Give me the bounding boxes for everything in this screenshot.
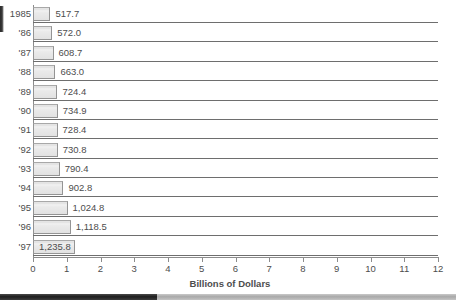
bar-value-label: 1,024.8 (68, 201, 105, 215)
x-tick (101, 257, 102, 262)
row-separator (33, 177, 438, 178)
bar[interactable] (33, 201, 68, 215)
x-tick (33, 257, 34, 262)
x-tick (404, 257, 405, 262)
bar-row: 730.8 (33, 141, 438, 160)
bar-value-label: 1,235.8 (39, 240, 75, 254)
bar[interactable] (33, 65, 55, 79)
bar-value-label: 730.8 (58, 143, 87, 157)
row-separator (33, 80, 438, 81)
x-tick (67, 257, 68, 262)
plot-area: 517.7572.0608.7663.0724.4734.9728.4730.8… (33, 5, 438, 257)
bar-row: 1,235.8 (33, 238, 438, 257)
bar-row: 1,118.5 (33, 218, 438, 237)
row-separator (33, 158, 438, 159)
category-label: '92 (0, 144, 31, 156)
category-label: '89 (0, 86, 31, 98)
x-tick-label: 1 (55, 263, 79, 275)
bar[interactable] (33, 181, 63, 195)
x-tick-label: 11 (392, 263, 416, 275)
bar-value-label: 790.4 (60, 162, 89, 176)
row-separator (33, 235, 438, 236)
bar-row: 902.8 (33, 179, 438, 198)
bar[interactable] (33, 143, 58, 157)
category-label: '87 (0, 47, 31, 59)
x-tick-label: 4 (156, 263, 180, 275)
bar-value-label: 517.7 (50, 7, 79, 21)
x-tick-label: 7 (257, 263, 281, 275)
horizontal-bar-chart: 1985'86'87'88'89'90'91'92'93'94'95'96'97… (0, 0, 460, 303)
x-tick-label: 3 (122, 263, 146, 275)
bar-value-label: 1,118.5 (71, 220, 107, 234)
category-label: '88 (0, 66, 31, 78)
bar[interactable] (33, 46, 54, 60)
x-tick (371, 257, 372, 262)
bar-value-label: 734.9 (58, 104, 87, 118)
x-tick-label: 10 (359, 263, 383, 275)
bar[interactable] (33, 26, 52, 40)
x-tick (269, 257, 270, 262)
row-separator (33, 22, 438, 23)
bar[interactable] (33, 104, 58, 118)
x-tick-label: 2 (89, 263, 113, 275)
category-label: '91 (0, 124, 31, 136)
x-tick-label: 8 (291, 263, 315, 275)
x-tick-label: 0 (21, 263, 45, 275)
category-label: '93 (0, 163, 31, 175)
bottom-scroll-strip[interactable] (0, 294, 456, 300)
bar-row: 790.4 (33, 160, 438, 179)
x-tick-label: 9 (325, 263, 349, 275)
x-tick (236, 257, 237, 262)
bar-row: 728.4 (33, 121, 438, 140)
x-tick (303, 257, 304, 262)
bar-row: 734.9 (33, 102, 438, 121)
bar-value-label: 608.7 (54, 46, 83, 60)
bar-row: 572.0 (33, 24, 438, 43)
bar-value-label: 663.0 (55, 65, 84, 79)
category-label: '96 (0, 221, 31, 233)
row-separator (33, 100, 438, 101)
category-label: '86 (0, 27, 31, 39)
row-separator (33, 41, 438, 42)
x-tick-label: 6 (224, 263, 248, 275)
bar-row: 517.7 (33, 5, 438, 24)
x-tick (134, 257, 135, 262)
category-label: '94 (0, 182, 31, 194)
bar-row: 1,024.8 (33, 199, 438, 218)
bar-value-label: 572.0 (52, 26, 81, 40)
bar-value-label: 902.8 (63, 181, 92, 195)
x-tick (438, 257, 439, 262)
x-tick-label: 12 (426, 263, 450, 275)
bar[interactable] (33, 85, 57, 99)
bar-row: 663.0 (33, 63, 438, 82)
x-axis-title: Billions of Dollars (0, 278, 460, 289)
row-separator (33, 255, 438, 256)
category-label: '95 (0, 202, 31, 214)
bar[interactable] (33, 123, 58, 137)
bar-value-label: 724.4 (57, 85, 86, 99)
category-axis: 1985'86'87'88'89'90'91'92'93'94'95'96'97 (0, 5, 31, 257)
x-tick (337, 257, 338, 262)
row-separator (33, 196, 438, 197)
x-tick (202, 257, 203, 262)
bar-value-label: 728.4 (58, 123, 87, 137)
category-label: '97 (0, 241, 31, 253)
row-separator (33, 216, 438, 217)
row-separator (33, 61, 438, 62)
scroll-thumb[interactable] (0, 294, 157, 300)
category-label: 1985 (0, 8, 31, 20)
bar[interactable] (33, 162, 60, 176)
category-label: '90 (0, 105, 31, 117)
bar[interactable] (33, 7, 50, 21)
row-separator (33, 119, 438, 120)
x-tick (168, 257, 169, 262)
bar-row: 608.7 (33, 44, 438, 63)
bar[interactable] (33, 220, 71, 234)
row-separator (33, 138, 438, 139)
bar-row: 724.4 (33, 83, 438, 102)
x-tick-label: 5 (190, 263, 214, 275)
